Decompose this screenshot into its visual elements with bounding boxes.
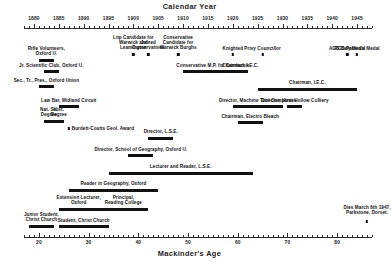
- event-point-marker: [68, 127, 70, 130]
- bottom-tick-minor: [84, 235, 85, 237]
- top-tick-major: [208, 24, 209, 28]
- bottom-tick-minor: [198, 235, 199, 237]
- top-tick-minor: [312, 26, 313, 28]
- bottom-tick-minor: [59, 235, 60, 237]
- top-tick-minor: [178, 26, 179, 28]
- event-label: Extension Lecturer, Oxford: [57, 195, 101, 206]
- top-tick-minor: [188, 26, 189, 28]
- bottom-tick-minor: [54, 235, 55, 237]
- top-tick-minor: [44, 26, 45, 28]
- bottom-tick-minor: [223, 235, 224, 237]
- top-tick-minor: [123, 26, 124, 28]
- bottom-tick-minor: [322, 235, 323, 237]
- top-tick-major: [109, 24, 110, 28]
- top-tick-minor: [297, 26, 298, 28]
- bottom-tick-minor: [163, 235, 164, 237]
- bottom-tick-minor: [362, 235, 363, 237]
- top-tick-minor: [263, 26, 264, 28]
- event-duration-bar: [233, 70, 248, 73]
- top-tick-minor: [163, 26, 164, 28]
- top-axis-title: Calendar Year: [0, 2, 379, 11]
- event-label: Sec., Tr., Pres., Oxford Union: [14, 78, 79, 83]
- top-tick-label: 1890: [78, 16, 89, 21]
- top-tick-minor: [94, 26, 95, 28]
- bottom-tick-major: [238, 233, 239, 237]
- event-label: Principal, Reading College: [105, 195, 142, 206]
- event-duration-bar: [238, 121, 263, 124]
- event-label: Director, Hirst Hollow Colliery: [261, 98, 328, 103]
- bottom-tick-minor: [253, 235, 254, 237]
- top-tick-minor: [273, 26, 274, 28]
- bottom-tick-minor: [367, 235, 368, 237]
- top-tick-minor: [148, 26, 149, 28]
- bottom-tick-minor: [118, 235, 119, 237]
- top-tick-label: 1935: [302, 16, 313, 21]
- bottom-tick-minor: [153, 235, 154, 237]
- top-tick-label: 1925: [252, 16, 263, 21]
- top-tick-minor: [118, 26, 119, 28]
- event-duration-bar: [109, 172, 253, 175]
- bottom-tick-minor: [292, 235, 293, 237]
- bottom-tick-minor: [357, 235, 358, 237]
- top-tick-label: 1930: [277, 16, 288, 21]
- bottom-tick-minor: [128, 235, 129, 237]
- bottom-tick-minor: [158, 235, 159, 237]
- top-tick-label: 1940: [326, 16, 337, 21]
- bottom-tick-minor: [34, 235, 35, 237]
- top-tick-minor: [218, 26, 219, 28]
- bottom-tick-minor: [332, 235, 333, 237]
- event-duration-bar: [59, 225, 109, 228]
- top-tick-major: [307, 24, 308, 28]
- top-tick-major: [332, 24, 333, 28]
- bottom-tick-major: [188, 233, 189, 237]
- bottom-axis-title: Mackinder's Age: [0, 249, 379, 258]
- event-label: Conservative Candidate for Warwick Burgh…: [160, 35, 197, 51]
- bottom-tick-minor: [327, 235, 328, 237]
- top-tick-minor: [99, 26, 100, 28]
- top-tick-minor: [327, 26, 328, 28]
- event-label: Director, L.S.E.: [144, 129, 178, 134]
- top-tick-minor: [302, 26, 303, 28]
- event-label: Reader in Geography, Oxford: [81, 181, 147, 186]
- bottom-axis-line: [24, 237, 372, 238]
- event-duration-bar: [39, 85, 54, 88]
- top-tick-label: 1905: [152, 16, 163, 21]
- bottom-tick-minor: [148, 235, 149, 237]
- bottom-tick-minor: [248, 235, 249, 237]
- bottom-tick-minor: [94, 235, 95, 237]
- top-tick-minor: [39, 26, 40, 28]
- top-tick-label: 1920: [227, 16, 238, 21]
- top-tick-major: [158, 24, 159, 28]
- bottom-tick-minor: [113, 235, 114, 237]
- top-tick-minor: [367, 26, 368, 28]
- event-point-marker: [261, 53, 263, 56]
- event-duration-bar: [44, 120, 54, 123]
- top-tick-minor: [362, 26, 363, 28]
- bottom-tick-minor: [317, 235, 318, 237]
- top-tick-label: 1915: [202, 16, 213, 21]
- bottom-tick-major: [337, 233, 338, 237]
- bottom-tick-label: 20: [36, 240, 42, 245]
- event-label: RGS Patron's Medal: [334, 46, 379, 51]
- bottom-tick-minor: [283, 235, 284, 237]
- top-tick-major: [258, 24, 259, 28]
- event-point-marker: [147, 53, 149, 56]
- bottom-tick-minor: [49, 235, 50, 237]
- event-duration-bar: [287, 105, 302, 108]
- top-tick-major: [357, 24, 358, 28]
- event-label: Lecturer and Reader, L.S.E.: [150, 164, 212, 169]
- event-duration-bar: [69, 189, 158, 192]
- event-point-marker: [232, 53, 234, 56]
- bottom-tick-label: 40: [135, 240, 141, 245]
- top-tick-major: [59, 24, 60, 28]
- top-tick-minor: [173, 26, 174, 28]
- top-tick-minor: [79, 26, 80, 28]
- bottom-tick-minor: [193, 235, 194, 237]
- top-tick-minor: [223, 26, 224, 28]
- event-duration-bar: [233, 105, 283, 108]
- top-tick-minor: [24, 26, 25, 28]
- top-tick-minor: [138, 26, 139, 28]
- top-tick-minor: [153, 26, 154, 28]
- bottom-tick-minor: [268, 235, 269, 237]
